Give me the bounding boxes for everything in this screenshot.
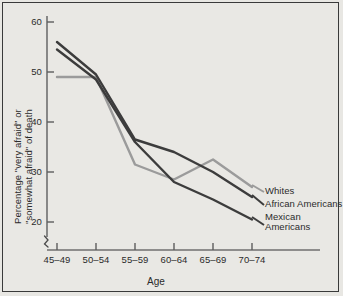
leader-line-african-americans bbox=[252, 195, 264, 205]
series-label-african-americans: African Americans bbox=[265, 199, 342, 210]
y-axis-title-line-1: Percentage "very afraid" or bbox=[12, 109, 23, 224]
series-label-mexican-americans-line2: Americans bbox=[265, 222, 310, 233]
x-axis-title: Age bbox=[116, 276, 196, 287]
y-axis-title-line-2: "somewhat afraid" of death bbox=[23, 109, 34, 224]
x-axis-ticks bbox=[57, 243, 252, 250]
series-line-whites bbox=[57, 77, 252, 187]
xtick-label-55-59: 55–59 bbox=[113, 254, 157, 265]
series-line-mexican-americans bbox=[57, 50, 252, 220]
leader-line-mexican-americans bbox=[252, 217, 264, 225]
label-leader-lines bbox=[252, 185, 264, 225]
xtick-label-45-49: 45–49 bbox=[35, 254, 79, 265]
xtick-label-60-64: 60–64 bbox=[152, 254, 196, 265]
xtick-label-65-69: 65–69 bbox=[191, 254, 235, 265]
leader-line-whites bbox=[252, 185, 264, 192]
ytick-label-60: 60 bbox=[20, 16, 42, 27]
xtick-label-70-74: 70–74 bbox=[230, 254, 274, 265]
y-axis-title: Percentage "very afraid" or "somewhat af… bbox=[12, 54, 38, 224]
data-series-group bbox=[57, 42, 252, 220]
figure-container: 60 50 40 30 20 45–49 50–54 55–59 60–64 6… bbox=[0, 0, 343, 296]
xtick-label-50-54: 50–54 bbox=[74, 254, 118, 265]
series-line-african-americans bbox=[57, 42, 252, 197]
axis-break-icon bbox=[45, 236, 49, 247]
y-axis-ticks bbox=[47, 22, 54, 222]
chart-plot-area bbox=[0, 0, 343, 296]
series-label-whites: Whites bbox=[265, 186, 294, 197]
